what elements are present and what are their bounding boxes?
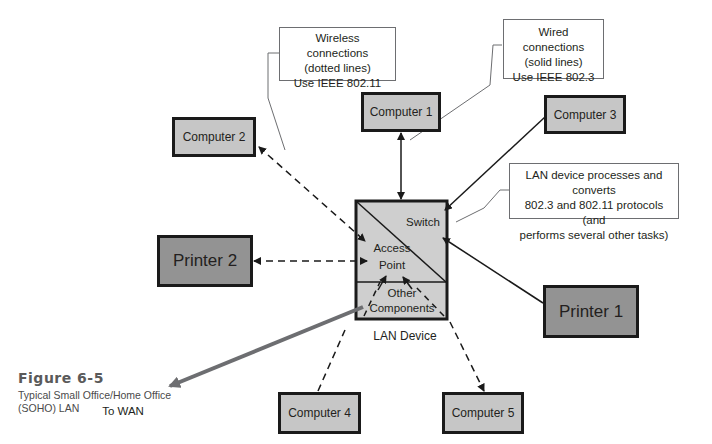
wireless-callout-line1: Wireless connections — [284, 31, 391, 61]
figure-caption: Typical Small Office/Home Office (SOHO) … — [18, 389, 171, 415]
other-components-line1: Other — [357, 286, 447, 301]
wireless-link-computer5 — [450, 322, 484, 391]
switch-label: Switch — [400, 214, 446, 231]
other-components-label: Other Components — [357, 286, 447, 316]
wireless-callout-line2: (dotted lines) — [284, 61, 391, 76]
wired-link-printer1 — [443, 238, 543, 303]
lan-callout-line1: LAN device processes and converts — [514, 168, 674, 198]
wired-callout: Wired connections (solid lines) Use IEEE… — [503, 19, 604, 79]
computer-2-label: Computer 2 — [183, 130, 246, 144]
computer-3-label: Computer 3 — [554, 108, 617, 122]
lan-device-callout: LAN device processes and converts 802.3 … — [509, 163, 679, 219]
lan-callout-line3: performs several other tasks) — [514, 228, 674, 243]
printer-1-node: Printer 1 — [543, 285, 639, 338]
printer-1-label: Printer 1 — [559, 302, 623, 322]
wireless-callout-line3: Use IEEE 802.11 — [284, 76, 391, 91]
lan-callout-line2: 802.3 and 802.11 protocols (and — [514, 198, 674, 228]
lan-device-label: LAN Device — [365, 329, 445, 343]
other-components-line2: Components — [357, 301, 447, 316]
printer-2-label: Printer 2 — [173, 251, 237, 271]
figure-caption-line2: (SOHO) LAN — [18, 402, 171, 415]
wired-callout-line2: (solid lines) — [508, 55, 599, 70]
wan-link — [170, 307, 363, 386]
computer-3-node: Computer 3 — [544, 95, 626, 134]
computer-2-node: Computer 2 — [172, 117, 256, 157]
access-point-label: Access Point — [370, 240, 414, 274]
figure-caption-line1: Typical Small Office/Home Office — [18, 389, 171, 402]
figure-number: Figure 6-5 — [18, 370, 104, 386]
access-point-line1: Access — [370, 240, 414, 257]
computer-5-node: Computer 5 — [442, 392, 524, 434]
access-point-line2: Point — [370, 257, 414, 274]
computer-4-node: Computer 4 — [278, 392, 361, 434]
wireless-callout: Wireless connections (dotted lines) Use … — [279, 27, 396, 81]
lan-callout-leader — [456, 190, 509, 222]
computer-5-label: Computer 5 — [452, 406, 515, 420]
wired-callout-line3: Use IEEE 802.3 — [508, 70, 599, 85]
computer-1-label: Computer 1 — [370, 105, 433, 119]
wired-callout-line1: Wired connections — [508, 25, 599, 55]
computer-1-node: Computer 1 — [361, 92, 441, 132]
printer-2-node: Printer 2 — [157, 235, 253, 287]
wireless-link-computer2 — [259, 147, 365, 241]
wireless-link-computer4 — [318, 330, 345, 391]
computer-4-label: Computer 4 — [288, 406, 351, 420]
